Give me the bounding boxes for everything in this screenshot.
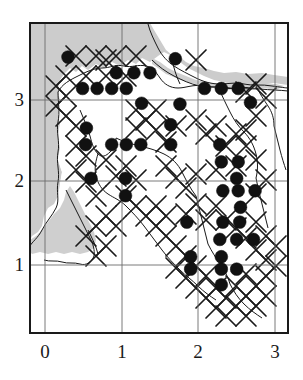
occurrence-dot <box>180 216 193 229</box>
occurrence-dot <box>76 82 89 95</box>
x-tick-label-0: 0 <box>34 342 56 361</box>
occurrence-dot <box>169 52 182 65</box>
occurrence-dot <box>119 189 132 202</box>
occurrence-dot <box>91 82 104 95</box>
y-tick-label-3: 3 <box>2 90 24 109</box>
occurrence-dot <box>230 172 243 185</box>
map-canvas <box>0 0 303 380</box>
occurrence-dot <box>216 184 229 197</box>
occurrence-dot <box>232 82 245 95</box>
occurrence-dot <box>79 138 92 151</box>
occurrence-dot <box>120 138 133 151</box>
x-tick-label-2: 2 <box>187 342 209 361</box>
occurrence-dot <box>62 51 75 64</box>
occurrence-dot <box>232 184 245 197</box>
occurrence-dot <box>135 97 148 110</box>
occurrence-dot <box>215 278 228 291</box>
occurrence-dot <box>174 98 187 111</box>
occurrence-dot <box>184 263 197 276</box>
occurrence-dot <box>215 263 228 276</box>
occurrence-dot <box>184 250 197 263</box>
occurrence-dot <box>119 172 132 185</box>
occurrence-dot <box>230 263 243 276</box>
occurrence-dot <box>213 138 226 151</box>
occurrence-dot <box>164 118 177 131</box>
occurrence-dot <box>232 155 245 168</box>
distribution-map-figure: 0 1 2 3 3 2 1 <box>0 0 303 380</box>
x-tick-label-3: 3 <box>264 342 286 361</box>
occurrence-dot <box>233 216 246 229</box>
occurrence-dot <box>216 216 229 229</box>
occurrence-dot <box>215 250 228 263</box>
occurrence-dot <box>80 122 93 135</box>
occurrence-dot <box>164 138 177 151</box>
occurrence-dot <box>105 82 118 95</box>
occurrence-dot <box>234 201 247 214</box>
occurrence-dot <box>215 82 228 95</box>
occurrence-dot <box>213 233 226 246</box>
occurrence-dot <box>85 172 98 185</box>
occurrence-dot <box>215 155 228 168</box>
occurrence-dot <box>244 96 257 109</box>
occurrence-dot <box>144 66 157 79</box>
occurrence-dot <box>249 184 262 197</box>
x-tick-label-1: 1 <box>111 342 133 361</box>
occurrence-dot <box>120 82 133 95</box>
y-tick-label-2: 2 <box>2 171 24 190</box>
occurrence-dot <box>134 138 147 151</box>
occurrence-dot <box>110 66 123 79</box>
occurrence-dot <box>230 233 243 246</box>
occurrence-dot <box>247 233 260 246</box>
occurrence-dot <box>198 82 211 95</box>
occurrence-dot <box>105 138 118 151</box>
y-tick-label-1: 1 <box>2 255 24 274</box>
occurrence-dot <box>128 66 141 79</box>
